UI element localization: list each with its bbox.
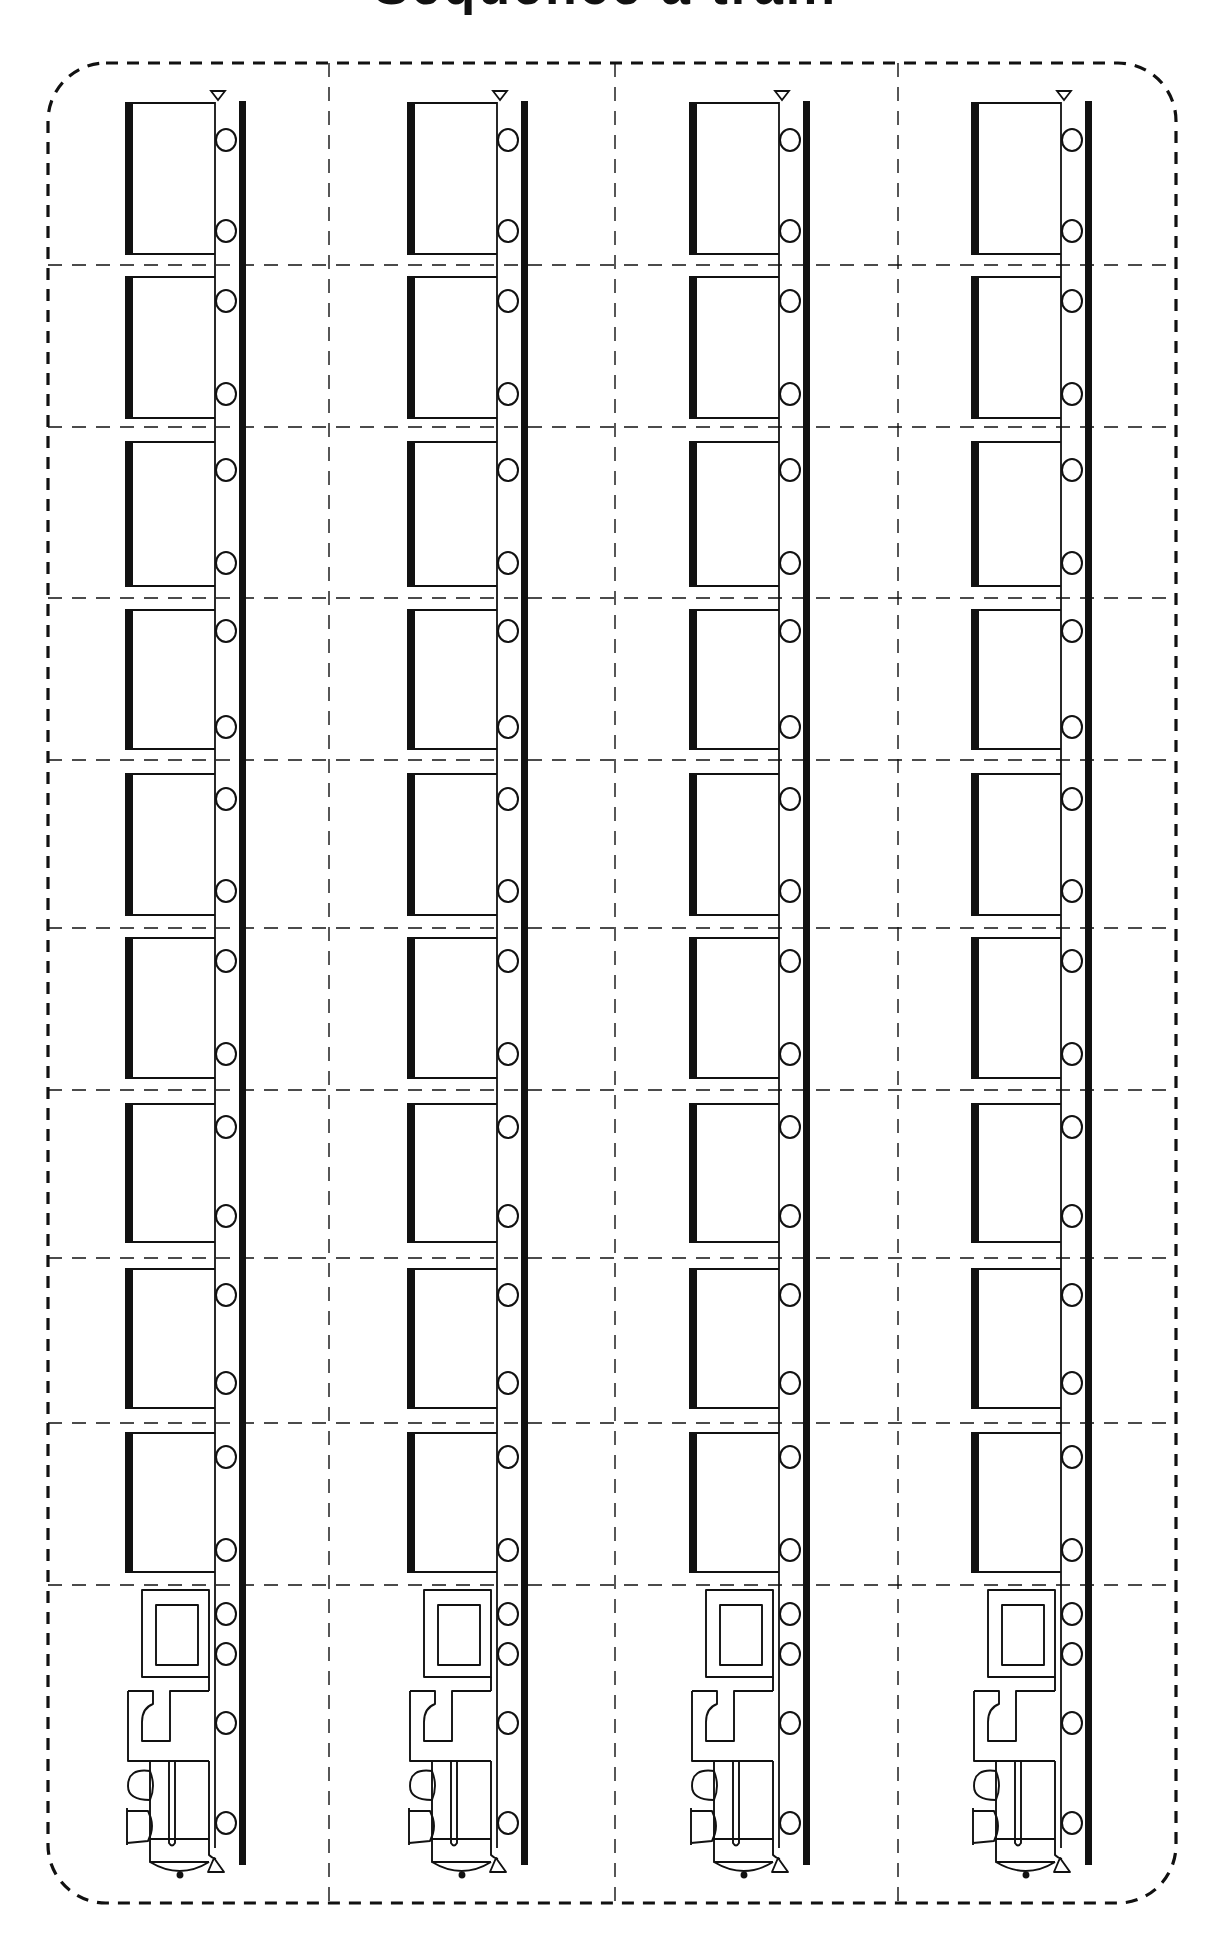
wheel-icon	[216, 1539, 236, 1561]
steam-pipe	[169, 1761, 175, 1846]
wheel-icon	[1062, 552, 1082, 574]
car-wall	[689, 102, 697, 255]
wheel-icon	[1062, 220, 1082, 242]
train-car	[125, 276, 236, 419]
headlamp	[460, 1873, 465, 1878]
wheel-icon	[780, 620, 800, 642]
steam-pipe	[1015, 1761, 1021, 1846]
car-wall	[689, 773, 697, 916]
train-car	[971, 1103, 1082, 1243]
wheel-icon	[780, 1372, 800, 1394]
coupler-icon	[490, 1858, 506, 1872]
cab-window	[438, 1605, 480, 1665]
train	[407, 91, 528, 1878]
locomotive	[409, 1590, 518, 1878]
train-car	[971, 441, 1082, 587]
wheel-icon	[1062, 620, 1082, 642]
wheel-icon	[1062, 1284, 1082, 1306]
coupler-icon	[211, 91, 225, 100]
car-wall	[125, 1432, 133, 1573]
car-wall	[407, 276, 415, 419]
wheel-icon	[1062, 383, 1082, 405]
train-car	[407, 441, 518, 587]
car-wall	[689, 441, 697, 587]
car-wall	[689, 1268, 697, 1409]
train-car	[689, 1268, 800, 1409]
steam-pipe	[733, 1761, 739, 1846]
wheel-icon	[498, 1812, 518, 1834]
train-car	[125, 1268, 236, 1409]
wheel-icon	[216, 1284, 236, 1306]
outer-cut-border	[48, 63, 1176, 1903]
locomotive	[691, 1590, 800, 1878]
car-wall	[689, 1103, 697, 1243]
wheel-icon	[216, 220, 236, 242]
train-car	[971, 773, 1082, 916]
wheel-icon	[1062, 1043, 1082, 1065]
car-wall	[407, 1103, 415, 1243]
train-car	[125, 1432, 236, 1573]
wheel-icon	[498, 1712, 518, 1734]
car-wall	[971, 1432, 979, 1573]
wheel-icon	[216, 290, 236, 312]
wheel-icon	[498, 1603, 518, 1625]
wheel-icon	[216, 459, 236, 481]
wheel-icon	[216, 716, 236, 738]
tender	[974, 1691, 1055, 1761]
car-wall	[407, 609, 415, 750]
car-wall	[971, 276, 979, 419]
cab-window	[156, 1605, 198, 1665]
train-car	[689, 276, 800, 419]
wheel-icon	[1062, 1603, 1082, 1625]
cab	[424, 1590, 491, 1677]
train-car	[125, 1103, 236, 1243]
train-car	[971, 937, 1082, 1079]
wheel-icon	[216, 788, 236, 810]
car-wall	[971, 102, 979, 255]
train-car	[407, 773, 518, 916]
train-sequencing-worksheet	[0, 0, 1212, 1942]
coupler-icon	[1057, 91, 1071, 100]
car-wall	[407, 937, 415, 1079]
train-car	[689, 1103, 800, 1243]
cut-lines	[48, 63, 1176, 1903]
wheel-icon	[780, 129, 800, 151]
cowcatcher	[432, 1862, 491, 1871]
car-wall	[125, 276, 133, 419]
wheel-icon	[498, 1539, 518, 1561]
car-wall	[689, 276, 697, 419]
wheel-icon	[1062, 1539, 1082, 1561]
smokestack	[973, 1808, 998, 1845]
train-car	[125, 102, 236, 255]
wheel-icon	[216, 1812, 236, 1834]
wheel-icon	[780, 1603, 800, 1625]
train	[125, 91, 246, 1878]
front-buffer	[432, 1839, 491, 1862]
wheel-icon	[1062, 1205, 1082, 1227]
wheel-icon	[216, 129, 236, 151]
wheel-icon	[1062, 1712, 1082, 1734]
car-wall	[125, 102, 133, 255]
wheel-icon	[498, 552, 518, 574]
smokestack	[691, 1808, 716, 1845]
car-wall	[971, 937, 979, 1079]
wheel-icon	[498, 950, 518, 972]
smokestack	[127, 1808, 152, 1845]
train-car	[689, 441, 800, 587]
wheel-icon	[780, 1446, 800, 1468]
wheel-icon	[216, 1643, 236, 1665]
wheel-icon	[1062, 950, 1082, 972]
wheel-icon	[780, 459, 800, 481]
car-wall	[689, 609, 697, 750]
wheel-icon	[1062, 1812, 1082, 1834]
train-car	[125, 937, 236, 1079]
wheel-icon	[216, 950, 236, 972]
train-car	[125, 441, 236, 587]
wheel-icon	[780, 1712, 800, 1734]
wheel-icon	[498, 880, 518, 902]
coupler-icon	[772, 1858, 788, 1872]
wheel-icon	[780, 1116, 800, 1138]
train-car	[407, 276, 518, 419]
wheel-icon	[498, 1446, 518, 1468]
boiler	[996, 1761, 1055, 1839]
